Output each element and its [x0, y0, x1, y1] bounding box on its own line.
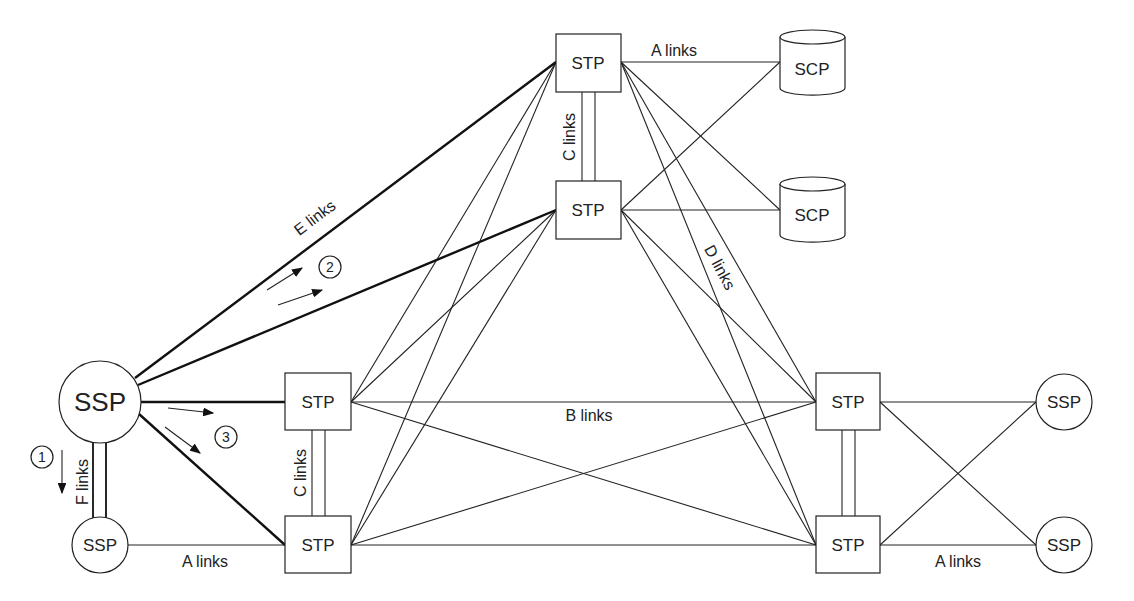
svg-text:SSP: SSP — [74, 387, 126, 417]
label-b-links: B links — [565, 407, 612, 424]
svg-text:STP: STP — [831, 536, 864, 555]
stp-upper[interactable]: STP — [556, 181, 621, 239]
svg-text:SCP: SCP — [795, 60, 830, 79]
stp-left-top[interactable]: STP — [285, 373, 351, 430]
svg-text:3: 3 — [222, 429, 230, 445]
svg-text:STP: STP — [301, 393, 334, 412]
stp-left-bottom[interactable]: STP — [285, 516, 351, 573]
arrow-icon — [165, 427, 200, 453]
label-e-links: E links — [291, 197, 339, 239]
scp-top[interactable]: SCP — [780, 30, 845, 95]
label-f-links: F links — [74, 459, 91, 505]
arrow-icon — [168, 408, 213, 413]
svg-text:SSP: SSP — [83, 536, 117, 555]
step-1: 1 — [31, 446, 53, 468]
svg-text:STP: STP — [831, 393, 864, 412]
svg-text:2: 2 — [326, 259, 334, 275]
svg-text:1: 1 — [38, 449, 46, 465]
ssp-links — [135, 62, 556, 545]
svg-text:STP: STP — [571, 201, 604, 220]
step-3: 3 — [215, 426, 237, 448]
f-links — [93, 443, 106, 518]
label-c-links-top: C links — [561, 113, 578, 161]
stp-right-top[interactable]: STP — [816, 373, 880, 430]
label-a-links-right: A links — [935, 553, 981, 570]
svg-text:SSP: SSP — [1047, 536, 1081, 555]
ssp-right-bottom[interactable]: SSP — [1036, 517, 1092, 573]
svg-text:SCP: SCP — [795, 206, 830, 225]
stp-right-bottom[interactable]: STP — [816, 516, 880, 573]
label-a-links-top: A links — [651, 42, 697, 59]
ssp-small[interactable]: SSP — [72, 517, 128, 573]
arrow-icon — [267, 268, 302, 290]
svg-text:STP: STP — [301, 536, 334, 555]
ssp-main[interactable]: SSP — [59, 361, 141, 443]
ssp-right-top[interactable]: SSP — [1036, 374, 1092, 430]
stp-top[interactable]: STP — [556, 34, 621, 92]
label-c-links-left: C links — [292, 449, 309, 497]
step-2: 2 — [319, 256, 341, 278]
c-links — [312, 92, 855, 516]
svg-text:STP: STP — [571, 54, 604, 73]
arrow-icon — [278, 290, 322, 305]
scp-bottom[interactable]: SCP — [780, 177, 845, 242]
svg-text:SSP: SSP — [1047, 393, 1081, 412]
label-a-links-left: A links — [182, 553, 228, 570]
label-d-links: D links — [701, 242, 739, 292]
ss7-network-diagram: 1 2 3 SSP SSP SSP SSP STP STP STP STP — [0, 0, 1134, 601]
